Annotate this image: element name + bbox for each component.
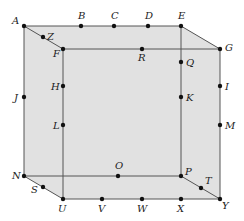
point-dot-icon bbox=[79, 24, 83, 28]
point-label: S bbox=[31, 184, 38, 195]
point-label: P bbox=[184, 166, 192, 177]
point-label: U bbox=[58, 203, 67, 214]
point-dot-icon bbox=[179, 95, 183, 99]
point-dot-icon bbox=[179, 24, 183, 28]
point-a: A bbox=[11, 15, 26, 28]
point-y: Y bbox=[218, 197, 230, 211]
point-dot-icon bbox=[112, 24, 116, 28]
point-label: Q bbox=[186, 57, 194, 68]
point-dot-icon bbox=[61, 123, 65, 127]
point-label: C bbox=[111, 10, 119, 21]
point-dot-icon bbox=[218, 47, 222, 51]
point-label: R bbox=[137, 52, 146, 63]
point-dot-icon bbox=[100, 197, 104, 201]
point-label: B bbox=[77, 10, 85, 21]
point-dot-icon bbox=[199, 186, 203, 190]
point-b: B bbox=[77, 10, 85, 28]
point-label: L bbox=[52, 120, 60, 131]
point-c: C bbox=[111, 10, 119, 28]
point-dot-icon bbox=[146, 24, 150, 28]
point-label: D bbox=[144, 10, 153, 21]
point-label: J bbox=[12, 92, 19, 103]
point-dot-icon bbox=[41, 35, 45, 39]
point-label: Z bbox=[46, 31, 55, 42]
point-label: A bbox=[11, 15, 19, 26]
point-label: O bbox=[115, 160, 123, 171]
point-dot-icon bbox=[140, 47, 144, 51]
point-dot-icon bbox=[179, 197, 183, 201]
point-d: D bbox=[144, 10, 153, 28]
point-label: E bbox=[177, 10, 186, 21]
point-dot-icon bbox=[61, 197, 65, 201]
point-label: F bbox=[52, 48, 61, 59]
cube-figure: ABCDEZFRGQHIJKLMONPSTUVWXY bbox=[0, 0, 244, 221]
point-dot-icon bbox=[61, 47, 65, 51]
point-label: W bbox=[137, 203, 148, 214]
point-dot-icon bbox=[22, 24, 26, 28]
point-label: H bbox=[50, 81, 60, 92]
point-e: E bbox=[177, 10, 186, 28]
point-label: K bbox=[185, 92, 194, 103]
cube-diagram: ABCDEZFRGQHIJKLMONPSTUVWXY bbox=[0, 0, 244, 221]
point-dot-icon bbox=[22, 95, 26, 99]
point-dot-icon bbox=[140, 197, 144, 201]
point-label: X bbox=[176, 203, 185, 214]
point-dot-icon bbox=[218, 84, 222, 88]
point-dot-icon bbox=[179, 174, 183, 178]
point-label: N bbox=[11, 170, 22, 181]
point-dot-icon bbox=[116, 174, 120, 178]
point-dot-icon bbox=[22, 174, 26, 178]
point-dot-icon bbox=[179, 60, 183, 64]
point-dot-icon bbox=[41, 185, 45, 189]
point-dot-icon bbox=[61, 84, 65, 88]
point-m: M bbox=[218, 120, 236, 131]
point-label: V bbox=[98, 203, 107, 214]
point-dot-icon bbox=[218, 123, 222, 127]
point-label: M bbox=[224, 120, 236, 131]
point-s: S bbox=[31, 184, 45, 195]
point-label: Y bbox=[222, 200, 230, 211]
point-label: G bbox=[225, 42, 233, 53]
point-label: I bbox=[224, 81, 230, 92]
